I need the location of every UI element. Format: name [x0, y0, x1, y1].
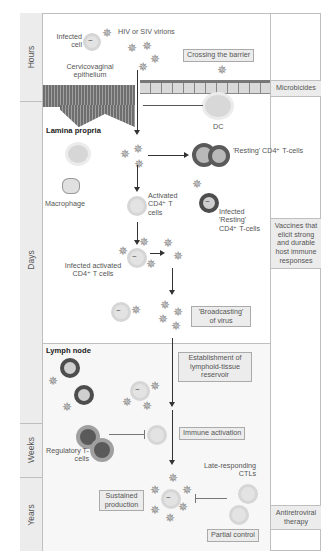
virion-icon: ✵	[138, 61, 148, 73]
arrow-head-icon	[134, 130, 140, 135]
infected-cell-icon: ~	[83, 33, 101, 51]
stage-box-broadcasting: 'Broadcasting' of virus	[191, 306, 251, 327]
virion-icon: ✵	[127, 42, 137, 54]
virion-icon: ✵	[160, 299, 170, 311]
virion-icon: ✵	[150, 504, 160, 516]
resting-cd4-cell-icon	[208, 145, 230, 167]
epithelium-label: Cervicovaginal epithelium	[55, 63, 125, 80]
time-label-days: Days	[26, 240, 36, 280]
flow-arrow	[172, 338, 173, 402]
virion-icon: ✵	[165, 512, 175, 524]
resting-cd4-label: 'Resting' CD4⁺ T-cells	[233, 147, 303, 155]
flow-arrow	[150, 253, 160, 254]
dendritic-cell-icon	[205, 95, 231, 117]
infected-resting-cell-icon: ~	[199, 193, 219, 213]
infected-cell-icon: ~	[111, 302, 131, 322]
ctl-cell-icon	[238, 484, 258, 504]
infected-cell-label: Infected cell	[50, 33, 82, 50]
activated-cd4-cell-icon	[127, 196, 147, 216]
inhibition-bar	[144, 430, 145, 439]
inhibition-line	[195, 498, 227, 499]
virion-icon: ✵	[142, 40, 152, 52]
epithelium-cells	[140, 80, 270, 94]
ctl-cell-icon	[229, 505, 249, 525]
virion-icon: ✵	[192, 178, 202, 190]
virion-icon: ✵	[150, 484, 160, 496]
stage-box-sustained: Sustained production	[99, 490, 144, 511]
divider-hours-days	[20, 101, 43, 102]
inhibition-line	[109, 434, 144, 435]
virion-icon: ✵	[158, 313, 168, 325]
arrow-head-icon	[169, 290, 175, 295]
time-label-years: Years	[26, 495, 36, 535]
lamina-propria-label: Lamina propria	[46, 127, 101, 136]
activated-cd4-label: Activated CD4⁺ T cells	[148, 192, 188, 217]
divider-days-weeks	[20, 423, 43, 424]
flow-arrow	[137, 165, 138, 187]
virion-icon: ✵	[48, 375, 58, 387]
virion-icon: ✵	[182, 484, 192, 496]
arrow-head-icon	[184, 152, 189, 158]
macrophage-label: Macrophage	[45, 200, 85, 208]
flow-arrow	[137, 222, 138, 240]
infected-cell-icon	[60, 358, 80, 378]
virion-icon: ✵	[122, 396, 132, 408]
stage-box-immune-activation: Immune activation	[179, 427, 245, 440]
intervention-microbicides: Microbicides	[271, 80, 321, 97]
dc-line	[143, 105, 203, 106]
virion-icon: ✵	[168, 472, 178, 484]
virion-icon: ✵	[150, 380, 160, 392]
late-ctl-label: Late-responding CTLs	[196, 462, 256, 479]
virion-icon: ✵	[163, 237, 173, 249]
infected-activated-label: Infected activated CD4⁺ T cells	[58, 262, 128, 279]
epithelium-tissue	[43, 85, 135, 107]
regulatory-label: Regulatory T-cells	[45, 447, 89, 464]
regulatory-cell-icon	[90, 438, 114, 462]
virion-icon: ✵	[120, 148, 130, 160]
virion-icon: ✵	[134, 158, 144, 170]
divider-lymph-node	[43, 343, 270, 344]
infected-resting-label: Infected 'Resting' CD4⁺ T-cells	[219, 208, 265, 233]
macrophage-icon	[62, 178, 80, 194]
virion-icon: ✵	[139, 236, 149, 248]
time-label-hours: Hours	[26, 37, 36, 77]
lymph-node-label: Lymph node	[46, 347, 91, 356]
virion-icon: ✵	[217, 64, 227, 76]
virion-icon: ✵	[150, 53, 160, 65]
flow-arrow	[172, 268, 173, 290]
divider-weeks-years	[20, 477, 43, 478]
time-label-weeks: Weeks	[26, 430, 36, 470]
virion-icon: ✵	[142, 400, 152, 412]
stage-box-establishment: Establishment of lymphoid-tissue reservo…	[178, 352, 252, 382]
infected-cell-icon: ~	[130, 381, 150, 401]
arrow-head-icon	[169, 402, 175, 407]
virion-icon: ✵	[102, 27, 112, 39]
dendritic-cell-icon	[68, 145, 88, 163]
infected-cell-icon	[74, 385, 94, 405]
virion-icon: ✵	[173, 306, 183, 318]
intervention-vaccines: Vaccines that elicit strong and durable …	[271, 218, 321, 269]
flow-arrow	[148, 155, 184, 156]
intervention-antiretroviral: Antiretroviral therapy	[271, 505, 321, 530]
activated-cell-icon	[147, 425, 167, 445]
stage-box-crossing: Crossing the barrier	[183, 49, 254, 62]
virion-icon: ✵	[178, 501, 188, 513]
stage-box-partial-control: Partial control	[207, 529, 259, 542]
virion-icon: ✵	[173, 250, 183, 262]
virion-icon: ✵	[131, 304, 141, 316]
arrow-head-icon	[160, 250, 165, 256]
virion-icon: ✵	[133, 143, 143, 155]
arrow-head-icon	[169, 460, 175, 465]
infected-activated-cell-icon: ~	[127, 248, 147, 268]
virion-icon: ✵	[171, 320, 181, 332]
flow-arrow	[137, 70, 138, 130]
virion-icon: ✵	[146, 258, 156, 270]
time-axis-column	[20, 13, 43, 551]
flow-arrow	[172, 410, 173, 460]
arrow-head-icon	[134, 187, 140, 192]
dc-label: DC	[213, 123, 223, 131]
virions-label: HIV or SIV virions	[118, 28, 175, 36]
virion-icon: ✵	[62, 401, 72, 413]
